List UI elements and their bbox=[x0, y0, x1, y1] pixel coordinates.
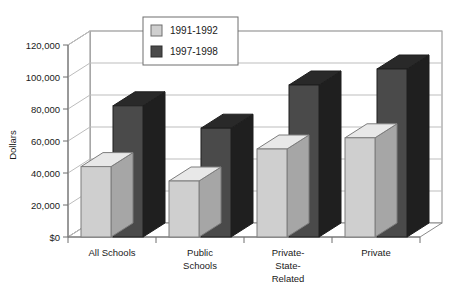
bar-side-face bbox=[375, 124, 397, 237]
y-axis-tick-label: 20,000 bbox=[31, 200, 60, 211]
x-axis-category-label: All Schools bbox=[89, 247, 136, 258]
y-axis-tick-label: $0 bbox=[49, 232, 60, 243]
bar-front-face bbox=[345, 138, 375, 237]
y-axis-tick-label: 120,000 bbox=[26, 40, 60, 51]
bar-side-face bbox=[111, 153, 133, 237]
x-axis-category-label: Public bbox=[187, 247, 213, 258]
bar-side-face bbox=[231, 114, 253, 237]
bar-front-face bbox=[257, 149, 287, 237]
y-axis-tick-label: 80,000 bbox=[31, 104, 60, 115]
bar-side-face bbox=[319, 71, 341, 237]
legend-swatch-1991-1992 bbox=[151, 25, 162, 36]
bar-front-face bbox=[169, 181, 199, 237]
x-axis-category-label: Related bbox=[272, 273, 305, 284]
x-axis-category-label: Schools bbox=[183, 260, 217, 271]
x-axis-category-labels: PrivatePrivate-State-RelatedPublicSchool… bbox=[89, 247, 391, 284]
x-axis-ticks bbox=[68, 237, 420, 243]
bar-side-face bbox=[407, 55, 429, 237]
legend-label-1991-1992: 1991-1992 bbox=[170, 25, 218, 36]
bar bbox=[345, 124, 397, 237]
bar-chart: $020,00040,00060,00080,000100,000120,000… bbox=[0, 0, 452, 295]
y-axis-tick-label: 100,000 bbox=[26, 72, 60, 83]
y-axis-tick-label: 40,000 bbox=[31, 168, 60, 179]
bar bbox=[169, 167, 221, 237]
x-axis-category-label: Private bbox=[361, 247, 391, 258]
bar bbox=[257, 135, 309, 237]
x-axis-category-label: State- bbox=[275, 260, 300, 271]
bar bbox=[81, 153, 133, 237]
legend-swatch-1997-1998 bbox=[151, 46, 162, 57]
bar-side-face bbox=[143, 92, 165, 237]
y-axis-tick-label: 60,000 bbox=[31, 136, 60, 147]
x-axis-category-label: Private- bbox=[272, 247, 305, 258]
chart-canvas: $020,00040,00060,00080,000100,000120,000… bbox=[0, 0, 452, 295]
bar-front-face bbox=[81, 167, 111, 237]
bar-side-face bbox=[287, 135, 309, 237]
y-axis-tick-labels: $020,00040,00060,00080,000100,000120,000 bbox=[26, 40, 60, 243]
chart-legend: 1991-1992 1997-1998 bbox=[143, 17, 238, 65]
y-axis-title: Dollars bbox=[7, 130, 18, 160]
legend-label-1997-1998: 1997-1998 bbox=[170, 46, 218, 57]
